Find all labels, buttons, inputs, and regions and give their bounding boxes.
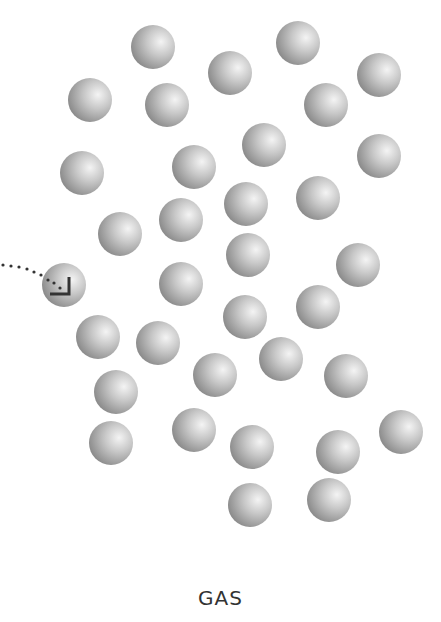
gas-molecule [68,78,112,122]
gas-molecule [242,123,286,167]
trajectory-dot [9,264,12,267]
gas-molecule [224,182,268,226]
state-label: GAS [0,586,441,610]
trajectory-dot [39,273,42,276]
gas-molecule [208,51,252,95]
gas-molecule [159,198,203,242]
gas-molecule [276,21,320,65]
gas-diagram: GAS [0,0,441,622]
gas-molecule [159,262,203,306]
gas-molecule [226,233,270,277]
trajectory-dot [58,286,61,289]
trajectory-dot [46,278,49,281]
gas-molecule [94,370,138,414]
trajectory-dot [52,281,55,284]
trajectory-dot [17,265,20,268]
gas-molecule [172,145,216,189]
gas-molecule [131,25,175,69]
gas-molecule [336,243,380,287]
tracked-molecule [42,263,86,307]
gas-molecule [296,285,340,329]
gas-molecule [60,151,104,195]
gas-molecule [172,408,216,452]
trajectory-dot [25,267,28,270]
gas-molecule [89,421,133,465]
gas-molecule [357,134,401,178]
gas-molecule [304,83,348,127]
trajectory-dot [1,263,4,266]
molecule-field [0,0,441,622]
gas-molecule [76,315,120,359]
trajectory-dot [32,270,35,273]
gas-molecule [296,176,340,220]
gas-molecule [324,354,368,398]
gas-molecule [307,478,351,522]
gas-molecule [230,425,274,469]
gas-molecule [145,83,189,127]
gas-molecule [357,53,401,97]
gas-molecule [259,337,303,381]
gas-molecule [223,295,267,339]
gas-molecule [136,321,180,365]
gas-molecule [379,410,423,454]
gas-molecule [228,483,272,527]
gas-molecule [316,430,360,474]
gas-molecule [193,353,237,397]
gas-molecule [98,212,142,256]
